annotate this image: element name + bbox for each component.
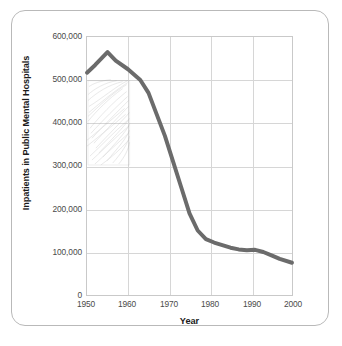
- x-axis-title: Year: [86, 316, 293, 326]
- y-tick-label: 100,000: [20, 247, 82, 257]
- line-chart: 600,000 500,000 400,000 300,000 200,000 …: [0, 0, 342, 346]
- x-tick-label: 1990: [232, 299, 272, 309]
- x-tick-label: 1980: [190, 299, 230, 309]
- x-tick-label: 1960: [107, 299, 147, 309]
- y-axis-title: Inpatients in Public Mental Hospitals: [21, 38, 31, 228]
- plot-area: [86, 36, 293, 296]
- x-tick-label: 2000: [273, 299, 313, 309]
- x-axis-tick-labels: 1950 1960 1970 1980 1990 2000: [86, 299, 293, 315]
- data-series-line: [87, 37, 292, 295]
- x-tick-label: 1970: [149, 299, 189, 309]
- x-tick-label: 1950: [66, 299, 106, 309]
